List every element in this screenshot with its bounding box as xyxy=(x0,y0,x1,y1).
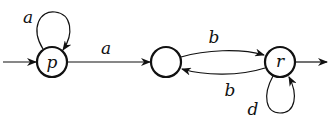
transition-q-r xyxy=(181,51,264,57)
transition-r-q-label: b xyxy=(225,80,236,100)
transition-p-q-label: a xyxy=(101,38,111,58)
transition-p-p xyxy=(37,12,70,50)
state-p-label: p xyxy=(47,52,58,72)
state-r: r xyxy=(265,47,295,77)
state-q xyxy=(151,47,181,77)
state-p: p xyxy=(37,47,67,77)
transition-q-r-label: b xyxy=(209,27,220,47)
transition-r-r xyxy=(267,76,295,113)
transition-r-q xyxy=(182,68,265,74)
state-r-label: r xyxy=(276,51,285,71)
transition-p-p-label: a xyxy=(23,7,33,27)
transition-r-r-label: d xyxy=(248,99,259,119)
automaton-diagram: p a a b b r d xyxy=(0,0,335,122)
